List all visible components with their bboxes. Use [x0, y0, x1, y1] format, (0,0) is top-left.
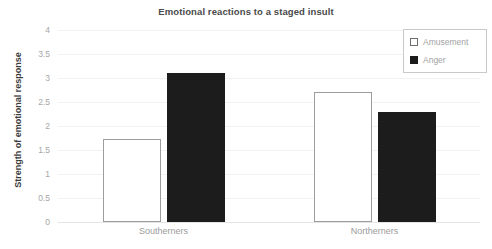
bar-northerners-anger[interactable]: [378, 112, 436, 222]
x-axis-label-southerners: Southerners: [104, 226, 224, 236]
square-filled-icon: [410, 56, 418, 64]
y-axis-tick-label: 1: [16, 170, 50, 179]
x-axis-label-northerners: Northerners: [315, 226, 435, 236]
legend-label-amusement: Amusement: [423, 38, 468, 47]
y-axis-tick-label: 1.5: [16, 146, 50, 155]
bar-southerners-amusement[interactable]: [103, 139, 161, 222]
y-axis-tick-label: 3.5: [16, 50, 50, 59]
y-axis-tick-label: 3: [16, 74, 50, 83]
y-axis-tick-label: 2: [16, 122, 50, 131]
gridline: [58, 78, 480, 79]
bar-northerners-amusement[interactable]: [314, 92, 372, 222]
legend-label-anger: Anger: [423, 56, 446, 65]
bar-southerners-anger[interactable]: [167, 73, 225, 222]
bar-chart: Emotional reactions to a staged insult S…: [0, 0, 492, 249]
chart-legend[interactable]: Amusement Anger: [403, 29, 487, 73]
legend-item-anger[interactable]: Anger: [410, 54, 446, 66]
y-axis-tick-label: 0: [16, 218, 50, 227]
y-axis-tick-label: 4: [16, 26, 50, 35]
y-axis-tick-label: 2.5: [16, 98, 50, 107]
square-outline-icon: [410, 38, 418, 46]
y-axis-tick-label: 0.5: [16, 194, 50, 203]
chart-title: Emotional reactions to a staged insult: [0, 6, 492, 17]
gridline: [58, 222, 480, 223]
legend-item-amusement[interactable]: Amusement: [410, 36, 468, 48]
gridline: [58, 102, 480, 103]
